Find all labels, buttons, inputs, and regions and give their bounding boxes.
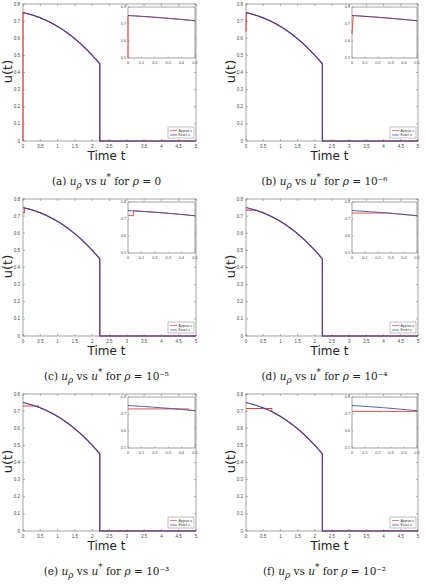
svg-text:0.2: 0.2 — [375, 451, 380, 455]
svg-text:0.7: 0.7 — [237, 214, 244, 219]
svg-text:0.7: 0.7 — [237, 19, 244, 24]
svg-text:0.8: 0.8 — [121, 5, 126, 9]
chart-f: 00.511.522.533.544.5500.10.20.30.40.50.6… — [213, 390, 426, 550]
svg-text:0.3: 0.3 — [166, 256, 171, 260]
y-axis-label: u(t) — [223, 450, 238, 473]
legend: Approx uExact u — [168, 127, 194, 138]
svg-text:Exact u: Exact u — [401, 328, 412, 332]
panel-b: 00.511.522.533.544.5500.10.20.30.40.50.6… — [213, 0, 426, 195]
svg-text:0: 0 — [17, 529, 20, 534]
svg-text:0.5: 0.5 — [14, 248, 21, 253]
svg-text:0.2: 0.2 — [237, 104, 244, 109]
caption-d: (d) uρ vs u* for ρ = 10⁻⁴ — [218, 367, 426, 385]
svg-text:Approx u: Approx u — [401, 129, 415, 133]
svg-text:0: 0 — [240, 529, 243, 534]
svg-text:0.2: 0.2 — [14, 494, 21, 499]
x-axis-label: Time t — [0, 539, 213, 553]
svg-text:0.7: 0.7 — [121, 217, 126, 221]
svg-text:0: 0 — [17, 139, 20, 144]
svg-text:0.5: 0.5 — [121, 446, 126, 450]
svg-text:0.4: 0.4 — [179, 256, 184, 260]
svg-text:0.7: 0.7 — [345, 217, 350, 221]
svg-text:0.5: 0.5 — [345, 56, 350, 60]
svg-text:0.6: 0.6 — [345, 39, 350, 43]
svg-text:0.1: 0.1 — [362, 256, 367, 260]
svg-text:0.1: 0.1 — [237, 316, 244, 321]
svg-text:0.5: 0.5 — [14, 443, 21, 448]
legend: Approx uExact u — [390, 517, 416, 528]
caption-f: (f) uρ vs u* for ρ = 10⁻² — [218, 562, 426, 580]
svg-text:Approx u: Approx u — [401, 519, 415, 523]
svg-text:0.2: 0.2 — [375, 61, 380, 65]
svg-text:0.5: 0.5 — [237, 248, 244, 253]
inset-zoom: 00.10.20.30.40.50.50.60.70.8 — [345, 200, 420, 259]
inset-zoom: 00.10.20.30.40.50.50.60.70.8 — [121, 200, 198, 259]
svg-text:0.1: 0.1 — [14, 121, 21, 126]
svg-text:0.4: 0.4 — [401, 61, 406, 65]
panel-a: 00.511.522.533.544.5500.10.20.30.40.50.6… — [0, 0, 213, 195]
svg-text:0.3: 0.3 — [14, 282, 21, 287]
legend: Approx uExact u — [390, 322, 416, 333]
svg-text:Exact u: Exact u — [179, 133, 190, 137]
svg-text:0.6: 0.6 — [345, 234, 350, 238]
svg-text:0.6: 0.6 — [14, 36, 21, 41]
svg-text:0.1: 0.1 — [362, 61, 367, 65]
svg-text:0.5: 0.5 — [345, 446, 350, 450]
svg-text:0.7: 0.7 — [345, 22, 350, 26]
svg-text:0.3: 0.3 — [166, 451, 171, 455]
svg-text:0.5: 0.5 — [192, 256, 197, 260]
svg-text:0.8: 0.8 — [14, 197, 21, 202]
svg-text:0.4: 0.4 — [179, 451, 184, 455]
svg-text:0.2: 0.2 — [237, 494, 244, 499]
svg-text:0.3: 0.3 — [166, 61, 171, 65]
svg-text:0.5: 0.5 — [414, 61, 419, 65]
legend: Approx uExact u — [168, 322, 194, 333]
svg-text:0.3: 0.3 — [388, 256, 393, 260]
x-axis-label: Time t — [223, 539, 426, 553]
svg-text:0.1: 0.1 — [14, 316, 21, 321]
svg-text:0.1: 0.1 — [139, 451, 144, 455]
caption-c: (c) uρ vs u* for ρ = 10⁻⁵ — [0, 367, 213, 385]
svg-text:0.1: 0.1 — [14, 511, 21, 516]
svg-text:0.3: 0.3 — [237, 282, 244, 287]
svg-text:0.6: 0.6 — [14, 426, 21, 431]
inset-zoom: 00.10.20.30.40.50.50.60.70.8 — [121, 395, 198, 454]
svg-text:0: 0 — [351, 61, 353, 65]
svg-text:0.6: 0.6 — [121, 39, 126, 43]
svg-text:0.6: 0.6 — [237, 231, 244, 236]
svg-text:0.4: 0.4 — [179, 61, 184, 65]
svg-text:0.6: 0.6 — [14, 231, 21, 236]
svg-text:0: 0 — [127, 451, 129, 455]
svg-text:0.5: 0.5 — [345, 251, 350, 255]
svg-text:0.8: 0.8 — [14, 392, 21, 397]
svg-text:0.3: 0.3 — [388, 61, 393, 65]
svg-text:0: 0 — [240, 139, 243, 144]
svg-text:0.6: 0.6 — [237, 426, 244, 431]
svg-text:0.2: 0.2 — [237, 299, 244, 304]
svg-text:Approx u: Approx u — [401, 324, 415, 328]
svg-text:0.5: 0.5 — [192, 61, 197, 65]
svg-text:0.1: 0.1 — [362, 451, 367, 455]
svg-text:0.8: 0.8 — [121, 395, 126, 399]
svg-text:0.7: 0.7 — [345, 412, 350, 416]
svg-text:0.8: 0.8 — [121, 200, 126, 204]
svg-text:Exact u: Exact u — [179, 523, 190, 527]
svg-text:Approx u: Approx u — [179, 519, 193, 523]
svg-text:0.5: 0.5 — [192, 451, 197, 455]
svg-text:0.2: 0.2 — [14, 299, 21, 304]
chart-d: 00.511.522.533.544.5500.10.20.30.40.50.6… — [213, 195, 426, 355]
panel-f: 00.511.522.533.544.5500.10.20.30.40.50.6… — [213, 390, 426, 585]
svg-text:0: 0 — [351, 451, 353, 455]
y-axis-label: u(t) — [223, 255, 238, 278]
legend: Approx uExact u — [168, 517, 194, 528]
x-axis-label: Time t — [0, 149, 213, 163]
svg-text:0.8: 0.8 — [237, 392, 244, 397]
caption-b: (b) uρ vs u* for ρ = 10⁻⁶ — [218, 172, 426, 190]
legend: Approx uExact u — [390, 127, 416, 138]
y-axis-label: u(t) — [223, 60, 238, 83]
svg-text:0.5: 0.5 — [121, 56, 126, 60]
svg-text:0.7: 0.7 — [14, 19, 21, 24]
chart-b: 00.511.522.533.544.5500.10.20.30.40.50.6… — [213, 0, 426, 160]
svg-text:0.5: 0.5 — [14, 53, 21, 58]
inset-zoom: 00.10.20.30.40.50.50.60.70.8 — [345, 5, 420, 64]
